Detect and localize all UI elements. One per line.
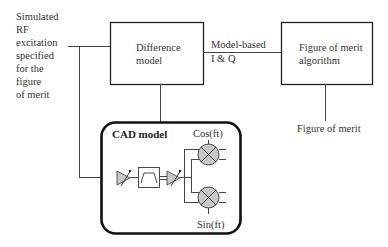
fom-algorithm-label: Figure of merit (299, 42, 363, 53)
input-label-line: of merit (16, 89, 50, 100)
cad-model-block: CAD model Cos(ft) Sin(ft) (102, 123, 241, 234)
input-label-line: figure (16, 76, 41, 87)
input-label-line: for the (16, 63, 44, 74)
input-label-line: specified (16, 50, 55, 61)
connection-label: Model-based (211, 39, 267, 50)
input-label-line: RF (16, 24, 29, 35)
input-label-line: Simulated (16, 11, 59, 22)
connection-label: I & Q (211, 53, 236, 64)
difference-model-block: Difference model (111, 23, 204, 85)
cos-label: Cos(ft) (193, 128, 223, 140)
block-diagram: Simulated RF excitation specified for th… (0, 0, 388, 247)
sin-label: Sin(ft) (197, 219, 225, 231)
figure-of-merit-algorithm-block: Figure of merit algorithm (282, 23, 373, 85)
difference-model-label: model (136, 55, 162, 66)
input-label-line: excitation (16, 37, 58, 48)
mixer-cos-icon (198, 144, 219, 165)
bandpass-filter-icon (139, 168, 160, 188)
input-label: Simulated RF excitation specified for th… (16, 11, 59, 100)
mixer-sin-icon (198, 187, 219, 208)
output-label: Figure of merit (297, 123, 361, 134)
fom-algorithm-label: algorithm (299, 55, 340, 66)
cad-model-title: CAD model (112, 128, 167, 140)
difference-model-label: Difference (136, 42, 181, 53)
